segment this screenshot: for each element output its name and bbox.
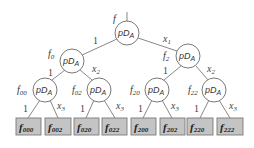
leaf-f000: f000 — [16, 118, 41, 135]
leaf-f200: f200 — [131, 118, 156, 135]
leaf-f002: f002 — [45, 118, 71, 135]
edge-labels: 1 x1 1 x2 1 x2 1 x3 1 x3 1 x3 1 x3 — [23, 33, 237, 114]
svg-text:1: 1 — [138, 103, 143, 114]
leaf-f220: f220 — [187, 118, 213, 135]
node-f00-label: f00 — [17, 84, 27, 97]
node-f22-label: f22 — [188, 84, 198, 97]
svg-text:x2: x2 — [206, 63, 215, 76]
leaf-f020: f020 — [74, 118, 99, 135]
node-f22: pDA — [202, 78, 226, 102]
svg-text:1: 1 — [163, 65, 168, 76]
node-f2: pDA — [176, 44, 200, 68]
svg-text:1: 1 — [194, 103, 199, 114]
node-f02-label: f02 — [72, 84, 82, 97]
node-f02: pDA — [87, 78, 111, 102]
node-f0-label: f0 — [48, 48, 55, 61]
svg-text:x3: x3 — [115, 100, 124, 113]
leaf-f022: f022 — [102, 118, 127, 135]
decision-tree-diagram: pDA f pDA f0 pDA f2 pDA f00 pDA f02 pDA … — [0, 0, 254, 148]
svg-text:x1: x1 — [162, 33, 171, 46]
svg-text:1: 1 — [23, 103, 28, 114]
svg-text:x2: x2 — [91, 63, 100, 76]
root-node: pDA — [115, 21, 139, 45]
svg-text:x3: x3 — [170, 100, 179, 113]
node-f2-label: f2 — [163, 50, 170, 63]
node-f20-label: f20 — [130, 84, 140, 97]
svg-text:x3: x3 — [228, 100, 237, 113]
node-f20: pDA — [145, 78, 169, 102]
root-label: f — [113, 13, 117, 24]
leaf-f202: f202 — [160, 118, 185, 135]
svg-text:1: 1 — [48, 67, 53, 78]
svg-text:1: 1 — [93, 35, 98, 46]
leaf-f222: f222 — [217, 118, 243, 135]
svg-text:x3: x3 — [56, 100, 65, 113]
svg-text:1: 1 — [80, 103, 85, 114]
node-f0: pDA — [60, 49, 84, 73]
node-f00: pDA — [33, 78, 57, 102]
